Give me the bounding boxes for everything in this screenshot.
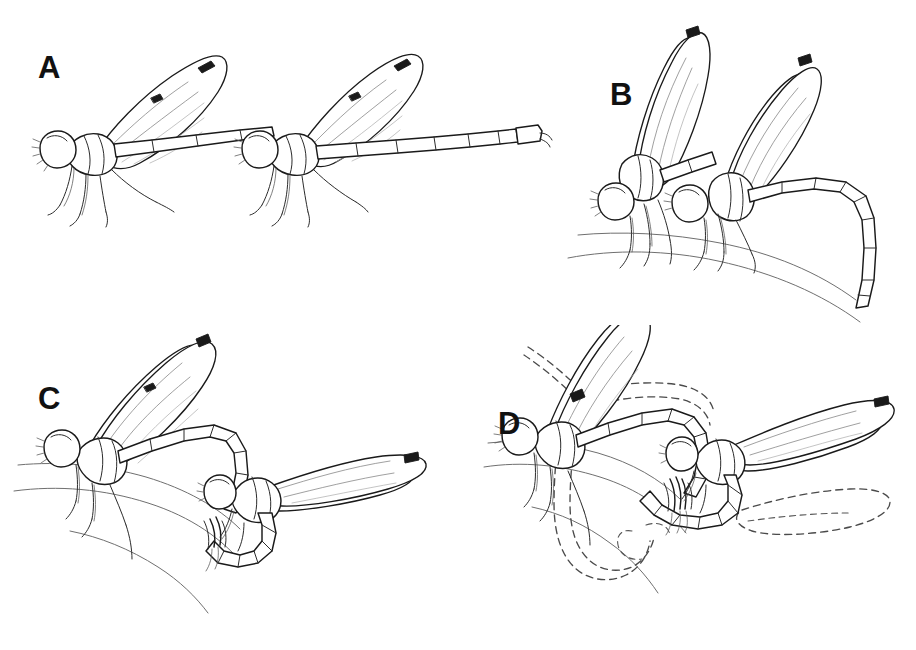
panel-c-drawing bbox=[0, 325, 470, 650]
damselfly-male bbox=[494, 325, 710, 545]
damselfly-right bbox=[234, 54, 552, 227]
panel-c: C bbox=[0, 325, 470, 650]
forewing bbox=[262, 455, 426, 506]
head bbox=[598, 183, 634, 220]
damselfly-male bbox=[36, 334, 248, 559]
head bbox=[672, 185, 708, 222]
damselfly-left bbox=[32, 56, 274, 227]
legs bbox=[48, 166, 174, 227]
terminal-appendages bbox=[516, 125, 542, 144]
head bbox=[44, 430, 80, 467]
damselfly-female bbox=[197, 452, 426, 571]
panel-label-c: C bbox=[38, 383, 60, 414]
substrate bbox=[484, 441, 686, 593]
head bbox=[40, 131, 76, 168]
panel-label-a: A bbox=[38, 52, 60, 83]
panel-d-drawing bbox=[470, 325, 916, 650]
panel-a-drawing bbox=[0, 0, 560, 250]
panel-b-drawing bbox=[560, 0, 916, 325]
substrate bbox=[568, 233, 860, 322]
panel-d: D bbox=[470, 325, 916, 650]
legs bbox=[250, 166, 368, 227]
panel-label-b: B bbox=[610, 79, 632, 110]
ghost-genital-curl bbox=[618, 531, 642, 560]
head bbox=[242, 131, 278, 168]
thorax bbox=[709, 173, 755, 221]
abdomen bbox=[206, 513, 276, 567]
figure-canvas: A bbox=[0, 0, 916, 650]
ghost-forewing bbox=[737, 489, 890, 535]
panel-a: A bbox=[0, 0, 560, 250]
damselfly-left bbox=[590, 26, 710, 268]
abdomen bbox=[748, 178, 876, 308]
panel-b: B bbox=[560, 0, 916, 325]
pterostigma bbox=[798, 54, 812, 66]
panel-label-d: D bbox=[498, 408, 520, 439]
